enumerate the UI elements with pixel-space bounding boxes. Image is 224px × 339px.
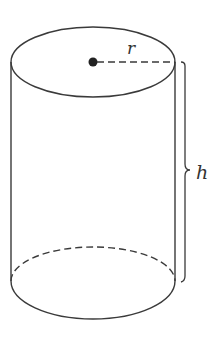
radius-label: r [127,38,136,58]
height-brace [181,62,190,282]
bottom-ellipse-front [11,281,175,319]
center-point [89,58,98,67]
height-label: h [196,161,208,183]
bottom-ellipse-back-dashed [11,247,175,281]
cylinder-diagram: r h [0,0,224,339]
